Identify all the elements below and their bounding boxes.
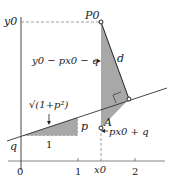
intercept-label: q <box>10 140 17 153</box>
distance-label: d <box>117 52 124 65</box>
vertical-diff-label: y0 − px0 − q <box>31 55 98 66</box>
slope-run-label: 1 <box>46 139 52 150</box>
slope-rise-label: p <box>81 120 88 133</box>
tick-label-2: 2 <box>132 166 138 177</box>
line-value-label: px0 + q <box>109 126 149 137</box>
point-p0 <box>99 20 103 24</box>
tick-label-1: 1 <box>75 166 81 177</box>
tick-label-0: 0 <box>17 166 23 177</box>
hypotenuse-arrowhead <box>47 121 51 125</box>
distance-diagram: y0 P0 A d y0 − px0 − q √(1+p²) p 1 q px0… <box>0 0 177 184</box>
tick-label-x0: x0 <box>94 164 107 175</box>
point-a <box>99 126 103 130</box>
point-foot <box>127 97 131 101</box>
hypotenuse-label: √(1+p²) <box>29 99 68 110</box>
y0-label: y0 <box>3 15 17 28</box>
p0-label: P0 <box>84 9 99 22</box>
large-shaded-triangle <box>101 22 129 128</box>
